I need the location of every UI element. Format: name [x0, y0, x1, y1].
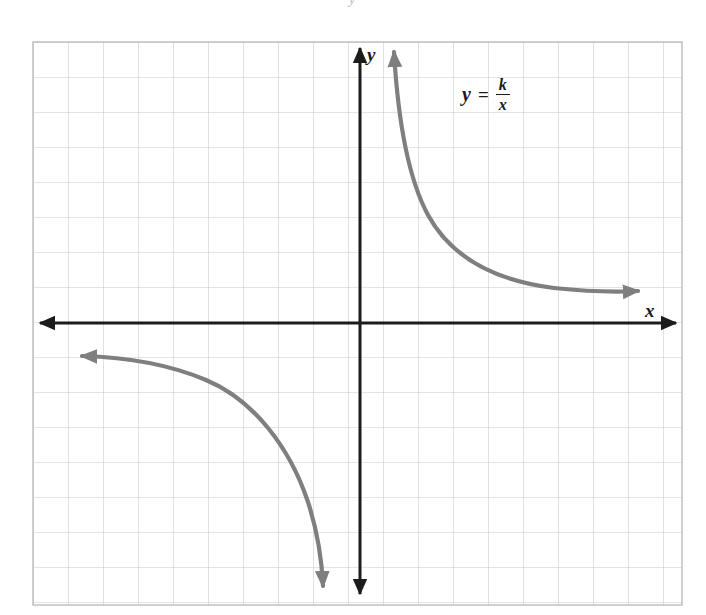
- x-axis-label: x: [645, 301, 655, 320]
- equation-lhs: y: [462, 84, 471, 104]
- y-axis-label: y: [367, 45, 375, 64]
- graph-svg: [0, 0, 706, 615]
- equation-annotation: y = k x: [462, 76, 510, 112]
- graph-canvas: y: [0, 0, 706, 615]
- equation-fraction: k x: [496, 77, 510, 113]
- coordinate-plane: y x y = k x: [0, 0, 706, 615]
- equation-denominator: x: [496, 94, 510, 113]
- equation-numerator: k: [496, 77, 510, 94]
- equation-equals-sign: =: [477, 85, 490, 104]
